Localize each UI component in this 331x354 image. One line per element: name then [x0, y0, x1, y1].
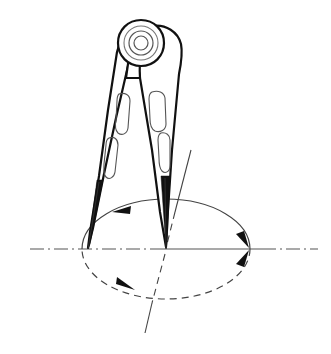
- ellipse-lower-half: [82, 249, 250, 299]
- tilted-axis-lower-visible: [145, 303, 152, 333]
- tilted-axis-lower-hidden: [152, 254, 165, 303]
- right-vertex-upper-arrow: [236, 231, 249, 248]
- upper-arc-direction-arrow: [112, 206, 131, 214]
- tilted-axis-upper-visible: [175, 150, 191, 212]
- hinge-head-outline: [118, 20, 164, 66]
- hinge-pivot-head: [118, 20, 164, 66]
- right-vertex-lower-arrow: [236, 250, 249, 267]
- left-leg-point: [88, 180, 103, 249]
- compass-ellipse-figure: [0, 0, 331, 354]
- compass-body-group: [88, 20, 182, 249]
- lower-arc-direction-arrow: [116, 277, 135, 290]
- direction-arrows-group: [112, 206, 249, 290]
- technical-illustration-canvas: [0, 0, 331, 354]
- left-point-edge: [88, 182, 99, 249]
- left-point-spike: [88, 180, 103, 249]
